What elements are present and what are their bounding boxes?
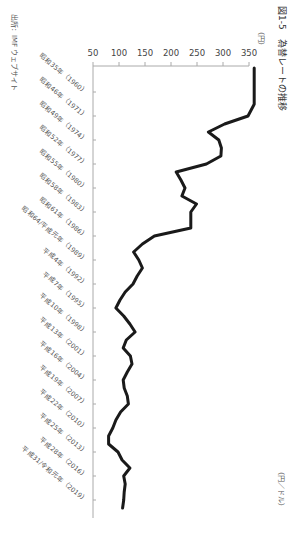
x-tick-label: 昭和55年（1980） xyxy=(38,147,90,192)
x-tick-label: 平成19年（2007） xyxy=(38,363,90,408)
y-tick-label: 300 xyxy=(215,48,231,58)
rotated-chart-container: 図1-5 為替レートの推移 （円） （円／ドル） 出所：IMF ウェブサイト 5… xyxy=(0,0,299,539)
y-tick-label: 250 xyxy=(189,48,205,58)
x-tick-label: 昭和52年（1977） xyxy=(38,123,90,168)
y-tick-label: 350 xyxy=(241,48,257,58)
y-axis-ticks: 50100150200250300350 xyxy=(88,48,258,66)
x-tick-label: 平成22年（2010） xyxy=(38,387,90,432)
y-tick-label: 200 xyxy=(163,48,179,58)
y-axis-unit-label: （円） xyxy=(257,28,265,49)
x-tick-label: 平成16年（2004） xyxy=(38,339,90,384)
unit-label: （円／ドル） xyxy=(277,468,285,510)
figure-title: 図1-5 為替レートの推移 xyxy=(277,6,288,111)
source-note: 出所：IMF ウェブサイト xyxy=(10,14,19,91)
x-axis-ticks: 昭和35年（1960）昭和46年（1971）昭和49年（1974）昭和52年（1… xyxy=(20,51,96,504)
x-tick-label: 昭和49年（1974） xyxy=(38,99,90,144)
y-tick-label: 100 xyxy=(111,48,127,58)
y-tick-label: 50 xyxy=(88,48,99,58)
series-line-yen-per-dollar xyxy=(109,68,255,508)
x-tick-label: 平成28年（2016） xyxy=(38,435,90,480)
x-tick-label: 昭和61年（1986） xyxy=(38,195,90,240)
x-tick-label: 平成25年（2013） xyxy=(38,411,90,456)
y-tick-label: 150 xyxy=(137,48,153,58)
exchange-rate-chart: 図1-5 為替レートの推移 （円） （円／ドル） 出所：IMF ウェブサイト 5… xyxy=(0,0,299,539)
x-tick-label: 昭和46年（1971） xyxy=(38,75,90,120)
x-tick-label: 平成10年（1998） xyxy=(38,291,90,336)
x-tick-label: 昭和58年（1983） xyxy=(38,171,90,216)
x-tick-label: 昭和35年（1960） xyxy=(38,51,90,96)
x-tick-label: 平成13年（2001） xyxy=(38,315,90,360)
